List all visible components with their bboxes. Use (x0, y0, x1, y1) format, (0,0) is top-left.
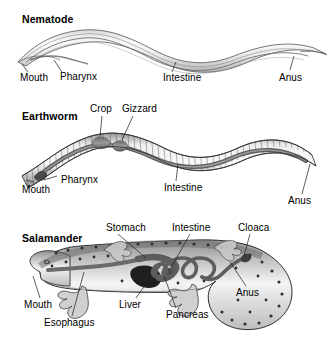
label-salamander-cloaca: Cloaca (238, 222, 269, 233)
label-salamander-mouth: Mouth (24, 299, 52, 310)
nematode-illustration (18, 30, 327, 74)
panel-title-earthworm: Earthworm (22, 110, 78, 122)
label-salamander-pancreas: Pancreas (166, 309, 209, 320)
label-earthworm-crop: Crop (90, 103, 112, 114)
label-nematode-intestine: Intestine (163, 72, 201, 83)
panel-title-salamander: Salamander (22, 232, 83, 244)
label-salamander-esophagus: Esophagus (44, 317, 95, 328)
label-salamander-intestine: Intestine (172, 222, 210, 233)
label-nematode-mouth: Mouth (20, 72, 48, 83)
label-nematode-pharynx: Pharynx (60, 71, 97, 82)
label-earthworm-mouth: Mouth (22, 184, 50, 195)
label-earthworm-anus: Anus (288, 195, 311, 206)
label-earthworm-gizzard: Gizzard (122, 103, 157, 114)
label-earthworm-pharynx: Pharynx (61, 174, 98, 185)
label-salamander-anus: Anus (236, 287, 259, 298)
label-nematode-anus: Anus (279, 72, 302, 83)
label-salamander-stomach: Stomach (106, 222, 146, 233)
diagram-page: Nematode Mouth Pharynx Intestine Anus Ea… (0, 0, 333, 343)
anatomy-artwork (0, 0, 333, 343)
label-salamander-liver: Liver (119, 299, 141, 310)
salamander-illustration (30, 234, 292, 330)
panel-title-nematode: Nematode (22, 13, 74, 25)
label-earthworm-intestine: Intestine (164, 182, 202, 193)
